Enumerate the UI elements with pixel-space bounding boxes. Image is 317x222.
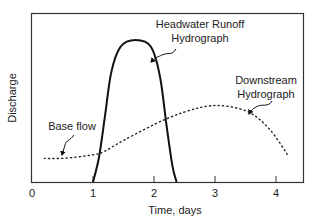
annotation-base-flow: Base flow bbox=[48, 120, 96, 132]
annotation-headwater-line2: Hydrograph bbox=[171, 32, 228, 44]
headwater-runoff-hydrograph-line bbox=[93, 40, 177, 182]
annotation-downstream-line1: Downstream bbox=[235, 74, 297, 86]
x-axis-ticks bbox=[32, 176, 276, 182]
x-tick-label-3: 3 bbox=[212, 187, 218, 199]
x-tick-label-2: 2 bbox=[151, 187, 157, 199]
annotation-downstream-line2: Hydrograph bbox=[237, 88, 294, 100]
annotation-headwater-line1: Headwater Runoff bbox=[156, 18, 245, 30]
annotation-base-flow-leader bbox=[62, 135, 74, 155]
x-tick-label-1: 1 bbox=[90, 187, 96, 199]
annotation-downstream-leader bbox=[249, 101, 272, 114]
x-tick-label-4: 4 bbox=[273, 187, 279, 199]
x-tick-label-0: 0 bbox=[29, 187, 35, 199]
x-axis-label: Time, days bbox=[148, 204, 202, 216]
hydrograph-chart: 01234 Headwater Runoff Hydrograph Downst… bbox=[0, 0, 317, 222]
y-axis-label: Discharge bbox=[6, 73, 18, 123]
x-axis-tick-labels: 01234 bbox=[29, 187, 279, 199]
